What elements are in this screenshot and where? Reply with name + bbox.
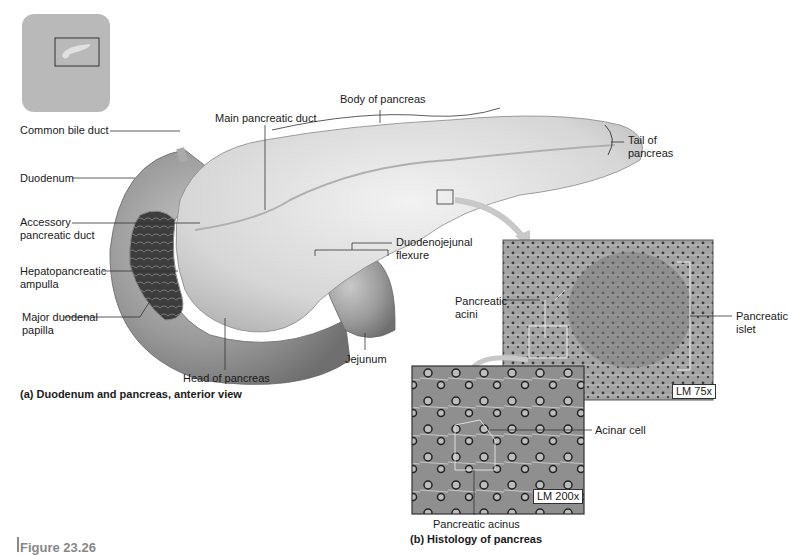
label-head-of-pancreas: Head of pancreas xyxy=(183,372,270,385)
label-tail-line2: pancreas xyxy=(628,147,673,160)
label-duodenum: Duodenum xyxy=(20,172,74,185)
figure-number: Figure 23.26 xyxy=(20,540,96,555)
label-major-papilla-line2: papilla xyxy=(22,324,54,337)
label-pancreatic-acini-line2: acini xyxy=(455,308,478,321)
label-common-bile-duct: Common bile duct xyxy=(20,124,109,137)
magnification-badge-lm75: LM 75x xyxy=(672,384,716,399)
label-hepatopancreatic-line2: ampulla xyxy=(20,278,59,291)
label-pancreatic-islet-line2: islet xyxy=(736,323,756,336)
label-pancreatic-islet-line1: Pancreatic xyxy=(736,310,788,323)
label-body-of-pancreas: Body of pancreas xyxy=(340,93,426,106)
torso-thumbnail xyxy=(22,14,110,112)
caption-panel-b: (b) Histology of pancreas xyxy=(410,533,542,545)
label-acinar-cell: Acinar cell xyxy=(595,424,646,437)
caption-panel-a: (a) Duodenum and pancreas, anterior view xyxy=(20,388,242,400)
label-dj-flexure-line2: flexure xyxy=(396,249,429,262)
label-jejunum: Jejunum xyxy=(345,353,387,366)
label-major-papilla-line1: Major duodenal xyxy=(22,311,98,324)
label-tail-line1: Tail of xyxy=(628,134,657,147)
islet-region xyxy=(568,252,692,368)
label-pancreatic-acinus: Pancreatic acinus xyxy=(433,518,520,531)
label-dj-flexure-line1: Duodenojejunal xyxy=(396,236,472,249)
magnification-badge-lm200: LM 200x xyxy=(533,489,583,504)
label-hepatopancreatic-line1: Hepatopancreatic xyxy=(20,265,106,278)
figure-number-bar xyxy=(17,537,19,552)
label-main-pancreatic-duct: Main pancreatic duct xyxy=(215,112,317,125)
label-accessory-duct-line1: Accessory xyxy=(20,216,71,229)
label-accessory-duct-line2: pancreatic duct xyxy=(20,229,95,242)
label-pancreatic-acini-line1: Pancreatic xyxy=(455,295,507,308)
